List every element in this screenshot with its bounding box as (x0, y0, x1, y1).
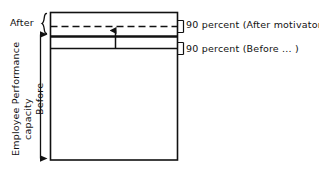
after-brace-label: After (10, 17, 34, 28)
before-range-label: Before (34, 83, 45, 115)
after-range-brace (42, 14, 47, 34)
before-callout-leader-tick (178, 43, 184, 55)
performance-capacity-diagram: After 90 percent (After motivators) 90 p… (0, 0, 319, 170)
y-axis-label-line1: Employee Performance (10, 42, 21, 156)
callout-before-motivators-label: 90 percent (Before ... ) (186, 43, 299, 54)
after-callout-leader-tick (178, 21, 184, 33)
capacity-box-outline (51, 13, 178, 161)
callout-after-motivators-label: 90 percent (After motivators) (186, 19, 319, 30)
y-axis-label-line2: capacity (22, 98, 33, 140)
